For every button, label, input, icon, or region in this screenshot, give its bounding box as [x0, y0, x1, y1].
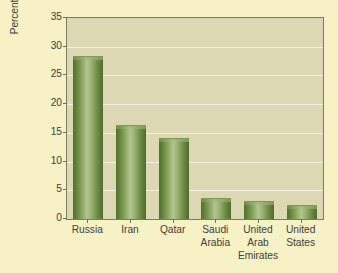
x-axis-tick-label: Qatar: [151, 223, 194, 236]
bar-series: [67, 18, 323, 219]
bar: [116, 125, 146, 219]
y-axis-tick-mark: [63, 46, 67, 47]
x-axis-tick-label-line: United: [279, 223, 322, 236]
x-axis-tick-label-line: Russia: [66, 223, 109, 236]
plot-area: [66, 17, 324, 220]
y-axis-tick-mark: [63, 132, 67, 133]
x-axis-tick-label-line: Qatar: [151, 223, 194, 236]
y-axis-tick-mark: [63, 189, 67, 190]
x-axis-tick-mark: [130, 219, 131, 223]
x-axis-tick-label-line: Arab: [237, 236, 280, 249]
y-axis-title-line-1: Percentage of world natural gas reserves…: [9, 0, 21, 34]
x-axis-tick-mark: [215, 219, 216, 223]
x-axis-tick-label: SaudiArabia: [194, 223, 237, 249]
y-axis-tick-labels: 05101520253035: [38, 10, 62, 225]
x-axis-tick-labels: RussiaIranQatarSaudiArabiaUnitedArabEmir…: [66, 223, 322, 271]
x-axis-tick-label-line: Arabia: [194, 236, 237, 249]
x-axis-tick-label: UnitedArabEmirates: [237, 223, 280, 262]
y-axis-tick-label: 0: [38, 213, 62, 223]
y-axis-tick-mark: [63, 161, 67, 162]
y-axis-tick-mark: [63, 103, 67, 104]
y-axis-tick-label: 25: [38, 69, 62, 79]
x-axis-tick-label: UnitedStates: [279, 223, 322, 249]
x-axis-tick-label-line: States: [279, 236, 322, 249]
bar: [73, 56, 103, 219]
y-axis-tick-mark: [63, 17, 67, 18]
x-axis-tick-label-line: Iran: [109, 223, 152, 236]
x-axis-tick-label: Russia: [66, 223, 109, 236]
x-axis-tick-mark: [173, 219, 174, 223]
bar-chart-figure: Percentage of world natural gas reserves…: [0, 0, 338, 273]
y-axis-tick-label: 5: [38, 184, 62, 194]
bar: [201, 198, 231, 219]
x-axis-tick-mark: [87, 219, 88, 223]
y-axis-tick-label: 15: [38, 127, 62, 137]
y-axis-tick-label: 35: [38, 12, 62, 22]
x-axis-tick-label: Iran: [109, 223, 152, 236]
y-axis-title: Percentage of world natural gas reserves…: [8, 0, 34, 43]
y-axis-tick-label: 10: [38, 156, 62, 166]
y-axis-tick-mark: [63, 218, 67, 219]
x-axis-tick-mark: [301, 219, 302, 223]
bar: [287, 205, 317, 219]
x-axis-tick-label-line: Emirates: [237, 249, 280, 262]
y-axis-tick-label: 30: [38, 41, 62, 51]
y-axis-tick-mark: [63, 74, 67, 75]
x-axis-tick-label-line: Saudi: [194, 223, 237, 236]
bar: [159, 138, 189, 219]
x-axis-tick-label-line: United: [237, 223, 280, 236]
y-axis-tick-label: 20: [38, 98, 62, 108]
x-axis-tick-mark: [258, 219, 259, 223]
bar: [244, 201, 274, 219]
